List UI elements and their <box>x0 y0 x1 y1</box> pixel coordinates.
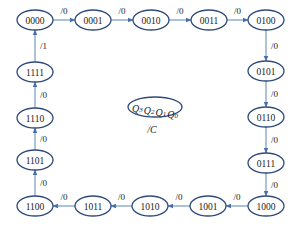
state-node: 1011 <box>75 196 111 216</box>
state-label: 0000 <box>26 16 45 26</box>
transition-label: /0 <box>234 6 242 16</box>
state-node: 1000 <box>248 196 284 216</box>
state-node: 1100 <box>17 196 53 216</box>
state-label: 1100 <box>26 202 45 212</box>
transition-label: /0 <box>271 180 279 190</box>
transition-label: /0 <box>40 90 48 100</box>
state-node: 0010 <box>133 10 169 30</box>
transition-label: /0 <box>118 6 126 16</box>
transition-label: /0 <box>40 134 48 144</box>
state-node: 0001 <box>75 10 111 30</box>
state-label: 1111 <box>26 68 44 78</box>
transition-label: /0 <box>175 192 183 202</box>
state-node: 0100 <box>248 10 284 30</box>
transition-label: /0 <box>271 89 279 99</box>
state-label: 1110 <box>26 114 45 124</box>
state-diagram: /0/0/0/0/0/0/0/0/0/0/0/0/0/0/0/1 0000000… <box>0 0 298 231</box>
state-label: 0011 <box>200 16 219 26</box>
state-label: 0110 <box>257 113 276 123</box>
state-node: 0000 <box>17 10 53 30</box>
state-label: 1010 <box>141 202 160 212</box>
legend-output: /C <box>146 124 157 135</box>
transition-label: /0 <box>60 192 68 202</box>
state-node: 0101 <box>248 61 284 81</box>
state-node: 1010 <box>132 196 168 216</box>
state-node: 0111 <box>248 153 284 173</box>
state-label: 1011 <box>84 202 103 212</box>
state-label: 0100 <box>257 16 276 26</box>
state-node: 1111 <box>17 62 53 82</box>
state-node: 0011 <box>191 10 227 30</box>
transition-label: /1 <box>40 41 47 51</box>
transition-label: /0 <box>233 192 241 202</box>
state-label: 0001 <box>84 16 103 26</box>
state-node: 0110 <box>248 107 284 127</box>
state-label: 0101 <box>257 67 276 77</box>
transition-label: /0 <box>271 41 279 51</box>
state-label: 1101 <box>26 156 45 166</box>
transition-label: /0 <box>176 6 184 16</box>
state-node: 1110 <box>17 108 53 128</box>
state-label: 0010 <box>142 16 161 26</box>
state-node: 1001 <box>190 196 226 216</box>
state-node: 1101 <box>17 150 53 170</box>
state-label: 0111 <box>257 159 276 169</box>
transition-label: /0 <box>118 192 126 202</box>
transition-label: /0 <box>40 178 48 188</box>
state-label: 1001 <box>199 202 218 212</box>
state-label: 1000 <box>257 202 276 212</box>
legend: Q3Q2Q1Q0 /C <box>128 97 182 135</box>
transition-label: /0 <box>271 135 279 145</box>
transition-label: /0 <box>60 6 68 16</box>
